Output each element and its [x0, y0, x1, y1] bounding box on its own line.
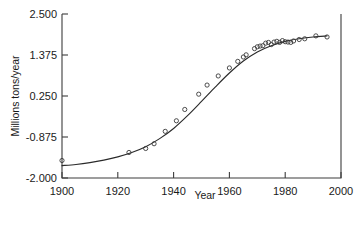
y-tick-label: 1.375: [29, 49, 57, 61]
fitted-logistic-curve: [62, 36, 327, 166]
x-tick-label: 1900: [50, 185, 74, 197]
y-tick-labels: -2.000-0.8750.2501.3752.500: [26, 8, 57, 184]
data-point-marker: [174, 119, 178, 123]
x-axis-title: Year: [194, 189, 216, 201]
chart-svg: -2.000-0.8750.2501.3752.500 190019201940…: [0, 0, 360, 236]
x-tick-label: 1980: [273, 185, 297, 197]
data-point-marker: [236, 59, 240, 63]
x-tick-label: 2000: [329, 185, 353, 197]
data-point-marker: [303, 37, 307, 41]
data-point-marker: [216, 74, 220, 78]
data-point-marker: [163, 129, 167, 133]
x-tick-label: 1920: [106, 185, 130, 197]
y-tick-label: 2.500: [29, 8, 57, 20]
data-point-marker: [272, 40, 276, 44]
data-points: [60, 34, 329, 163]
y-tick-label: 0.250: [29, 90, 57, 102]
y-axis-title: Millions tons/year: [9, 55, 21, 137]
data-point-marker: [227, 66, 231, 70]
data-point-marker: [314, 34, 318, 38]
y-ticks: [62, 14, 68, 178]
page-caption-strip: [0, 229, 360, 236]
data-point-marker: [264, 41, 268, 45]
data-point-marker: [183, 107, 187, 111]
x-tick-label: 1960: [217, 185, 241, 197]
x-ticks: [62, 172, 341, 178]
data-point-marker: [197, 92, 201, 96]
chart-figure: -2.000-0.8750.2501.3752.500 190019201940…: [0, 0, 360, 236]
y-tick-label: -2.000: [26, 172, 57, 184]
data-point-marker: [205, 83, 209, 87]
y-tick-label: -0.875: [26, 131, 57, 143]
x-tick-label: 1940: [161, 185, 185, 197]
